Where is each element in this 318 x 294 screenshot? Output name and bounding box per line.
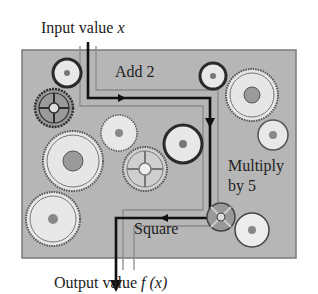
input-label-text: Input value xyxy=(41,19,117,36)
gear-icon xyxy=(53,59,81,87)
gear-icon xyxy=(101,115,137,151)
gear-icon xyxy=(235,213,269,247)
step-add-2: Add 2 xyxy=(115,64,155,80)
spoked-gear-icon xyxy=(35,89,73,127)
step-multiply: Multiply xyxy=(228,158,284,174)
gear-icon xyxy=(43,131,103,191)
gear-icon xyxy=(164,125,202,163)
spoked-gear-icon xyxy=(207,203,235,231)
output-label: Output value f (x) xyxy=(54,275,167,291)
output-variable: f (x) xyxy=(141,274,167,291)
function-machine-diagram xyxy=(0,0,318,294)
output-label-text: Output value xyxy=(54,274,141,291)
gear-icon xyxy=(258,120,288,150)
input-variable: x xyxy=(117,19,124,36)
gear-icon xyxy=(226,69,278,121)
input-label: Input value x xyxy=(41,20,125,36)
spoked-gear-icon xyxy=(123,147,167,191)
step-square: Square xyxy=(134,221,178,237)
step-by-5: by 5 xyxy=(228,178,256,194)
gear-icon xyxy=(26,192,80,246)
gear-icon xyxy=(200,63,226,89)
